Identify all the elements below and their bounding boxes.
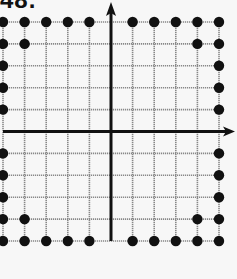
point-dot [192, 17, 202, 27]
point-dot [41, 236, 51, 246]
point-dot [214, 192, 224, 202]
axes [3, 2, 235, 241]
point-dot [214, 39, 224, 49]
point-dot [0, 148, 8, 158]
point-dot [214, 236, 224, 246]
point-dot [0, 192, 8, 202]
point-dot [192, 236, 202, 246]
point-dot [63, 236, 73, 246]
point-dot [0, 61, 8, 71]
point-dot [214, 170, 224, 180]
point-dot [214, 104, 224, 114]
point-dot [149, 17, 159, 27]
point-dot [192, 214, 202, 224]
point-dot [0, 17, 8, 27]
point-dot [171, 236, 181, 246]
point-dot [171, 17, 181, 27]
point-dot [214, 83, 224, 93]
point-dot [192, 39, 202, 49]
point-dot [19, 214, 29, 224]
point-dot [63, 17, 73, 27]
point-dot [19, 236, 29, 246]
point-dot [127, 236, 137, 246]
point-dot [0, 214, 8, 224]
point-dot [0, 83, 8, 93]
point-dot [214, 148, 224, 158]
point-dot [41, 17, 51, 27]
point-dot [0, 39, 8, 49]
point-dot [214, 17, 224, 27]
point-dot [149, 236, 159, 246]
point-dot [0, 236, 8, 246]
point-dot [0, 104, 8, 114]
point-dot [19, 39, 29, 49]
point-dot [84, 236, 94, 246]
coordinate-grid [0, 0, 237, 279]
point-dot [214, 214, 224, 224]
point-dot [127, 17, 137, 27]
point-dot [0, 170, 8, 180]
point-dot [84, 17, 94, 27]
point-dot [19, 17, 29, 27]
point-dot [214, 61, 224, 71]
